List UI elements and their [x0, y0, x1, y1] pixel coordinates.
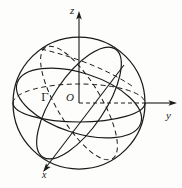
y-axis-label: y	[166, 110, 171, 121]
x-axis	[43, 65, 124, 172]
x-axis-label: x	[42, 170, 46, 180]
sphere-diagram-canvas	[0, 0, 182, 188]
z-axis-label: z	[70, 5, 74, 16]
z-axis	[76, 11, 82, 103]
sphere-diagram-figure: z y x O Γ	[0, 0, 182, 188]
gamma-curve-label: Γ	[41, 92, 49, 103]
x-axis-line	[47, 65, 124, 166]
origin-label: O	[66, 92, 74, 103]
